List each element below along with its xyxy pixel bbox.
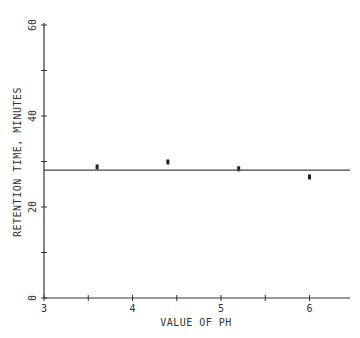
x-axis-label: VALUE OF PH: [160, 317, 232, 328]
x-tick-label: 4: [129, 303, 135, 314]
data-point: [308, 174, 311, 179]
x-tick-label: 5: [218, 303, 224, 314]
series: [44, 159, 350, 179]
data-point: [166, 159, 169, 164]
x-tick-label: 6: [306, 303, 312, 314]
y-tick-label: 20: [27, 201, 38, 213]
axes: [44, 23, 350, 298]
y-tick-label: 0: [27, 295, 38, 301]
ticks: [41, 25, 310, 301]
tick-labels: 02040603456: [27, 19, 313, 314]
x-tick-label: 3: [41, 303, 47, 314]
y-tick-label: 40: [27, 110, 38, 122]
data-point: [96, 164, 99, 169]
y-tick-label: 60: [27, 19, 38, 31]
y-axis-label: RETENTION TIME, MINUTES: [12, 87, 23, 237]
chart: 02040603456 VALUE OF PH RETENTION TIME, …: [0, 0, 360, 338]
